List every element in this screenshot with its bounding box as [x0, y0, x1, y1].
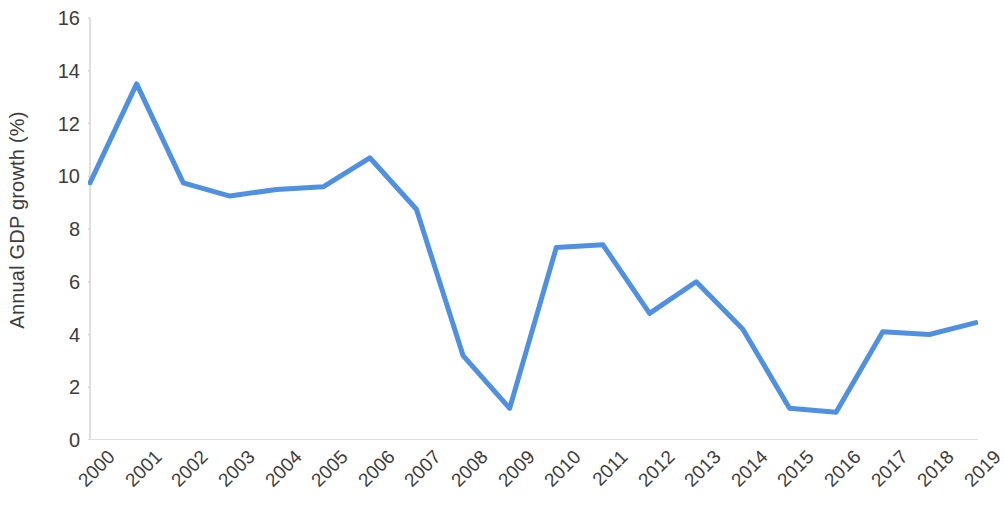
y-tick-label: 8	[34, 218, 80, 241]
plot-area	[88, 10, 978, 440]
y-axis-tick-labels: 1614121086420	[28, 0, 80, 509]
plot-svg	[88, 10, 978, 440]
data-series-line	[90, 84, 976, 412]
y-tick-label: 2	[34, 376, 80, 399]
y-tick-label: 4	[34, 323, 80, 346]
y-tick-label: 0	[34, 429, 80, 452]
y-tick-label: 12	[34, 112, 80, 135]
y-tick-label: 14	[34, 59, 80, 82]
axis-lines	[90, 18, 978, 440]
y-tick-label: 10	[34, 165, 80, 188]
y-tick-label: 16	[34, 7, 80, 30]
x-axis-tick-labels: 2000200120022003200420052006200720082009…	[88, 446, 978, 509]
y-tick-label: 6	[34, 270, 80, 293]
axis-tick-marks	[88, 18, 976, 440]
